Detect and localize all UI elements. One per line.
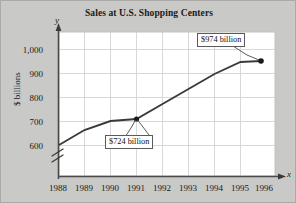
- data-point-marker-1996: [258, 58, 264, 64]
- plot-area: [1, 1, 296, 203]
- annotation-974-billion: $974 billion: [197, 33, 245, 47]
- chart-figure: Sales at U.S. Shopping Centers $ billion…: [0, 0, 296, 203]
- x-axis-arrow: [278, 174, 286, 180]
- plot-background: [59, 32, 275, 176]
- annotation-724-billion: $724 billion: [105, 135, 153, 149]
- y-axis-arrow: [56, 23, 62, 31]
